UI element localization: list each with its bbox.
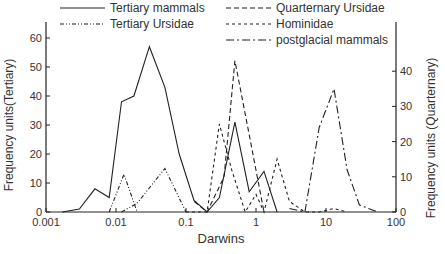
series-tertiary-ursidae [122, 169, 187, 213]
y-axis-label-right: Frequency units (Quarternary) [424, 58, 438, 219]
y-tick-label-left: 50 [30, 61, 42, 73]
legend-label: postglacial mammals [276, 33, 388, 47]
x-axis-label: Darwins [198, 231, 245, 246]
legend-label: Tertiary mammals [110, 1, 205, 15]
legend-label: Hominidae [276, 17, 334, 31]
y-tick-label-right: 30 [400, 100, 412, 112]
x-tick-label: 0.01 [105, 216, 126, 228]
legend: Tertiary mammalsTertiary UrsidaeQuartern… [60, 1, 388, 47]
series-tertiary-ursidae [109, 174, 137, 212]
series-hominidae [186, 124, 347, 212]
legend-label: Tertiary Ursidae [110, 17, 194, 31]
y-tick-label-left: 30 [30, 119, 42, 131]
x-tick-label: 1 [253, 216, 259, 228]
series-lines [62, 47, 378, 212]
y-axis-label-left: Frequency units(Tertiary) [2, 59, 16, 192]
y-tick-label-right: 40 [400, 65, 412, 77]
x-tick-label: 0.1 [178, 216, 193, 228]
series-tertiary-mammals [62, 47, 277, 212]
y-tick-label-right: 20 [400, 136, 412, 148]
y-tick-label-left: 20 [30, 148, 42, 160]
y-tick-label-left: 60 [30, 32, 42, 44]
series-postglacial-mammals [289, 89, 377, 212]
chart-canvas: 0.0010.010.11101000102030405060010203040… [0, 0, 445, 254]
legend-label: Quarternary Ursidae [276, 1, 385, 15]
y-tick-label-right: 10 [400, 171, 412, 183]
y-tick-label-left: 10 [30, 177, 42, 189]
y-tick-label-left: 40 [30, 90, 42, 102]
axes: 0.0010.010.11101000102030405060010203040 [30, 22, 413, 228]
y-tick-label-right: 0 [400, 206, 406, 218]
x-tick-label: 10 [320, 216, 332, 228]
y-tick-label-left: 0 [36, 206, 42, 218]
series-quarternary-ursidae [194, 61, 264, 212]
